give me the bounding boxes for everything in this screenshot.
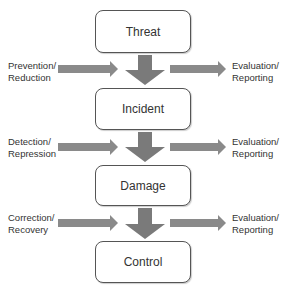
down-arrow-3 <box>125 208 165 239</box>
stage-label: Incident <box>122 102 164 116</box>
output-label-line: Reporting <box>232 224 279 236</box>
output-arrow-3 <box>170 215 226 231</box>
output-label-line: Evaluation/ <box>232 212 279 224</box>
output-label-3: Evaluation/ Reporting <box>232 212 279 236</box>
stage-incident: Incident <box>95 88 191 130</box>
down-arrow-2 <box>125 132 165 162</box>
down-arrows <box>125 55 165 239</box>
output-label-line: Reporting <box>232 148 279 160</box>
input-arrow-2 <box>58 139 118 155</box>
stage-label: Damage <box>120 179 165 193</box>
stage-label: Threat <box>126 25 161 39</box>
down-arrow-1 <box>125 55 165 85</box>
output-label-line: Evaluation/ <box>232 136 279 148</box>
output-arrow-2 <box>170 139 226 155</box>
stage-label: Control <box>124 255 163 269</box>
stage-damage: Damage <box>95 165 191 206</box>
stage-control: Control <box>95 241 191 283</box>
input-label-3: Correction/ Recovery <box>8 212 54 236</box>
stage-threat: Threat <box>95 10 191 53</box>
input-label-line: Repression <box>8 148 56 160</box>
output-label-1: Evaluation/ Reporting <box>232 60 279 84</box>
output-arrow-1 <box>170 61 226 77</box>
input-label-line: Correction/ <box>8 212 54 224</box>
input-arrow-1 <box>58 61 118 77</box>
output-label-2: Evaluation/ Reporting <box>232 136 279 160</box>
input-arrow-3 <box>58 215 118 231</box>
input-label-2: Detection/ Repression <box>8 136 56 160</box>
output-label-line: Reporting <box>232 72 279 84</box>
input-label-line: Detection/ <box>8 136 56 148</box>
input-label-line: Prevention/ <box>8 60 56 72</box>
input-label-1: Prevention/ Reduction <box>8 60 56 84</box>
input-label-line: Recovery <box>8 224 54 236</box>
output-label-line: Evaluation/ <box>232 60 279 72</box>
input-label-line: Reduction <box>8 72 56 84</box>
